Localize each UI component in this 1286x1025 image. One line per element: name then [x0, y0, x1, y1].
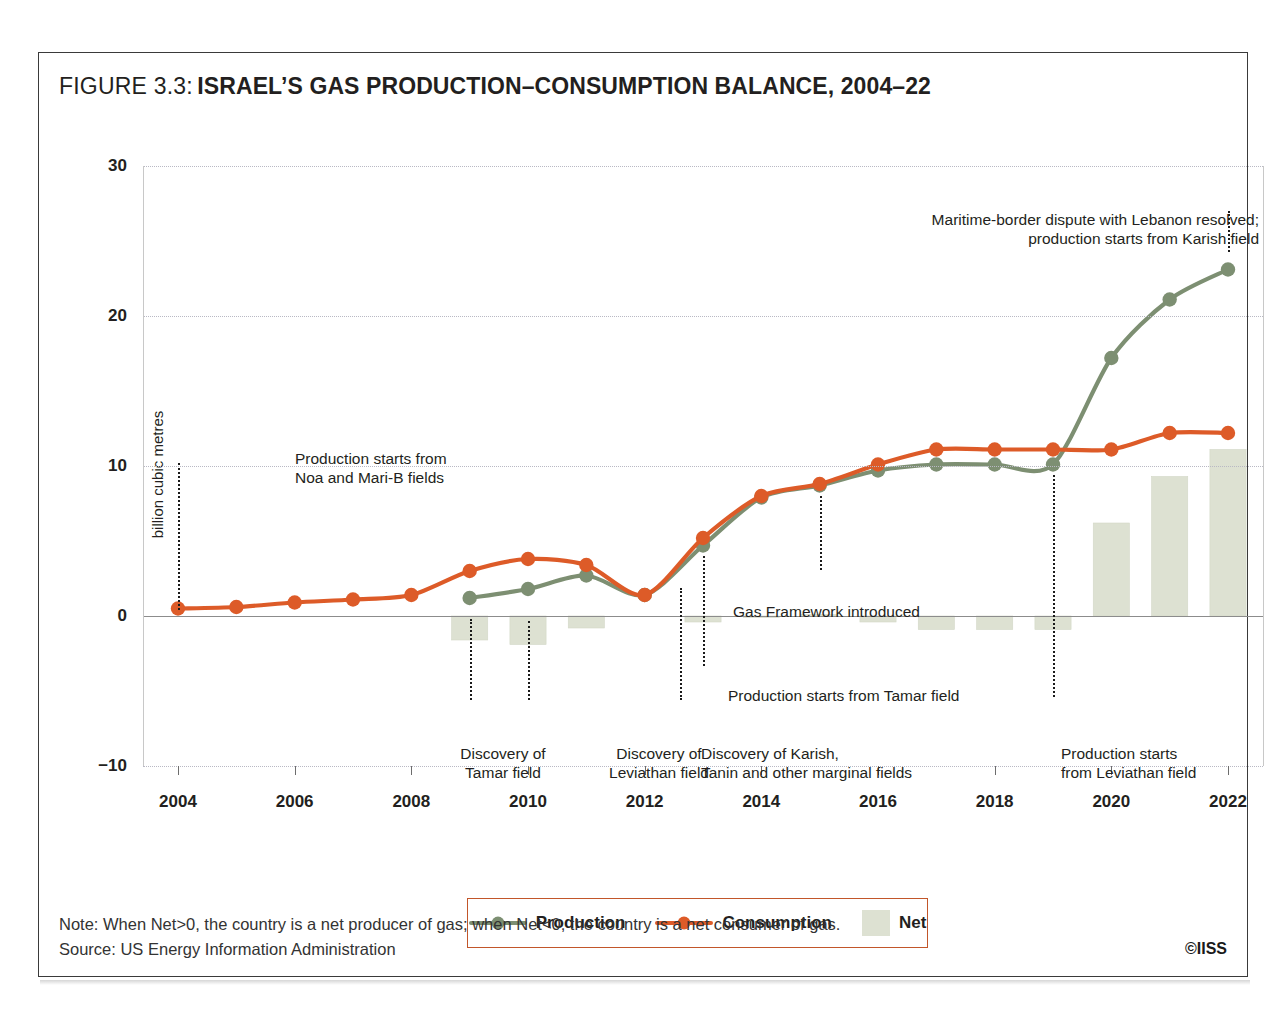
annotation-karish-production: Maritime-border dispute with Lebanon res… — [929, 210, 1259, 248]
annotation-noa-mari-b-line-1: Noa and Mari-B fields — [295, 468, 515, 487]
leader-line-tamar-discovery — [470, 619, 472, 700]
x-axis-tick-2004: 2004 — [159, 792, 197, 812]
x-axis-tick-2008: 2008 — [392, 792, 430, 812]
page-title: ISRAEL’S GAS PRODUCTION–CONSUMPTION BALA… — [197, 73, 931, 99]
gridline — [143, 166, 1263, 167]
x-axis-tick-2016: 2016 — [859, 792, 897, 812]
figure-title-row: FIGURE 3.3: ISRAEL’S GAS PRODUCTION–CONS… — [59, 73, 931, 100]
leader-line-noa-mari-b — [178, 463, 180, 610]
consumption-point-15 — [1046, 442, 1060, 456]
consumption-point-6 — [521, 552, 535, 566]
leader-line-leviathan-discovery — [528, 621, 530, 701]
annotation-karish-tanin-discovery-line-1: Tanin and other marginal fields — [701, 763, 1031, 782]
consumption-point-7 — [579, 558, 593, 572]
net-bar-2022 — [1210, 450, 1246, 617]
x-tick-mark-2006 — [295, 766, 296, 775]
x-axis-tick-2022: 2022 — [1209, 792, 1247, 812]
x-axis-tick-2006: 2006 — [276, 792, 314, 812]
annotation-karish-tanin-discovery: Discovery of Karish,Tanin and other marg… — [701, 744, 1031, 782]
annotation-karish-production-line-0: Maritime-border dispute with Lebanon res… — [929, 210, 1259, 229]
leader-line-gas-framework — [820, 496, 822, 570]
chart-plot-area: billion cubic metres 3020100−10200420062… — [143, 166, 1263, 766]
consumption-point-12 — [871, 457, 885, 471]
gridline — [143, 316, 1263, 317]
production-point-10 — [1046, 457, 1060, 471]
consumption-point-8 — [637, 588, 651, 602]
figure-container: FIGURE 3.3: ISRAEL’S GAS PRODUCTION–CONS… — [38, 52, 1248, 977]
net-bar-2021 — [1152, 477, 1188, 617]
annotation-noa-mari-b-line-0: Production starts from — [295, 449, 515, 468]
consumption-point-11 — [812, 477, 826, 491]
x-axis-tick-2018: 2018 — [976, 792, 1014, 812]
annotation-tamar-production-line-0: Production starts from Tamar field — [728, 686, 1038, 705]
plot-border-left — [143, 166, 144, 766]
consumption-point-18 — [1221, 426, 1235, 440]
x-axis-tick-2020: 2020 — [1092, 792, 1130, 812]
annotation-gas-framework: Gas Framework introduced — [733, 602, 1033, 621]
consumption-point-10 — [754, 489, 768, 503]
legend-label: Net — [899, 913, 926, 933]
annotation-gas-framework-line-0: Gas Framework introduced — [733, 602, 1033, 621]
production-point-8 — [929, 457, 943, 471]
net-bar-2020 — [1093, 523, 1129, 616]
consumption-point-9 — [696, 531, 710, 545]
y-axis-tick-0: 0 — [83, 606, 127, 626]
production-point-11 — [1104, 351, 1118, 365]
production-point-0 — [462, 591, 476, 605]
page-shadow — [40, 980, 1250, 985]
y-axis-tick-20: 20 — [83, 306, 127, 326]
consumption-point-14 — [987, 442, 1001, 456]
net-bar-2011 — [568, 616, 604, 628]
leader-line-karish-production — [1228, 211, 1230, 252]
annotation-leviathan-production-line-1: from Leviathan field — [1061, 763, 1281, 782]
consumption-point-4 — [404, 588, 418, 602]
note-line: Note: When Net>0, the country is a net p… — [59, 912, 840, 937]
production-point-9 — [987, 457, 1001, 471]
figure-number: FIGURE 3.3: — [59, 73, 193, 99]
x-tick-mark-2008 — [411, 766, 412, 775]
plot-border-right — [1263, 166, 1264, 766]
annotation-leviathan-production-line-0: Production starts — [1061, 744, 1281, 763]
x-axis-tick-2012: 2012 — [626, 792, 664, 812]
consumption-point-1 — [229, 600, 243, 614]
y-axis-label: billion cubic metres — [149, 411, 166, 539]
x-axis-tick-2014: 2014 — [742, 792, 780, 812]
annotation-leviathan-production: Production startsfrom Leviathan field — [1061, 744, 1281, 782]
consumption-point-17 — [1162, 426, 1176, 440]
consumption-point-13 — [929, 442, 943, 456]
consumption-point-2 — [287, 595, 301, 609]
x-tick-mark-2004 — [178, 766, 179, 775]
legend-item-net[interactable]: Net — [862, 910, 926, 936]
production-point-1 — [521, 582, 535, 596]
consumption-point-3 — [346, 592, 360, 606]
production-point-13 — [1221, 262, 1235, 276]
source-line: Source: US Energy Information Administra… — [59, 937, 840, 962]
consumption-point-16 — [1104, 442, 1118, 456]
figure-notes: Note: When Net>0, the country is a net p… — [59, 912, 840, 962]
consumption-point-5 — [462, 564, 476, 578]
iiss-credit: ©IISS — [1185, 940, 1227, 958]
annotation-karish-tanin-discovery-line-0: Discovery of Karish, — [701, 744, 1031, 763]
leader-line-tamar-production — [703, 556, 705, 666]
annotation-karish-production-line-1: production starts from Karish field — [929, 229, 1259, 248]
production-point-12 — [1162, 292, 1176, 306]
leader-line-karish-tanin-discovery — [680, 588, 682, 701]
y-axis-tick--10: −10 — [83, 756, 127, 776]
annotation-tamar-production: Production starts from Tamar field — [728, 686, 1038, 705]
x-axis-tick-2010: 2010 — [509, 792, 547, 812]
legend-swatch-icon — [862, 910, 890, 936]
leader-line-leviathan-production — [1053, 475, 1055, 697]
annotation-noa-mari-b: Production starts fromNoa and Mari-B fie… — [295, 449, 515, 487]
y-axis-tick-30: 30 — [83, 156, 127, 176]
y-axis-tick-10: 10 — [83, 456, 127, 476]
